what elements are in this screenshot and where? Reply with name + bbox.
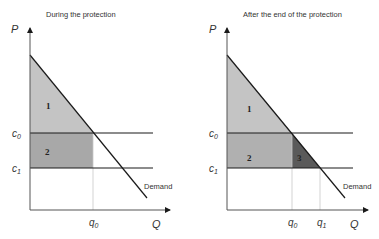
left-c1-label: c1 xyxy=(12,163,21,175)
right-q0-label: q0 xyxy=(288,217,298,229)
right-c0-label: c0 xyxy=(209,128,218,140)
right-region-3-label: 3 xyxy=(297,153,302,163)
right-panel: After the end of the protection 1 2 3 P … xyxy=(209,10,371,230)
right-region-1-label: 1 xyxy=(247,104,252,114)
right-region-2 xyxy=(227,133,292,168)
right-q1-label: q1 xyxy=(317,217,327,229)
right-title: After the end of the protection xyxy=(243,10,342,19)
left-q0-label: q0 xyxy=(89,217,99,229)
right-demand-label: Demand xyxy=(343,182,371,191)
left-c0-label: c0 xyxy=(12,128,21,140)
right-region-2-label: 2 xyxy=(247,153,252,163)
right-q-label: Q xyxy=(350,218,359,230)
left-panel: During the protection 1 2 P Q c0 c1 q0 D… xyxy=(11,10,172,230)
left-q-label: Q xyxy=(152,218,161,230)
left-p-label: P xyxy=(11,23,19,35)
left-demand-label: Demand xyxy=(144,182,172,191)
left-region-1-label: 1 xyxy=(46,101,51,111)
left-region-2-label: 2 xyxy=(45,147,50,157)
protection-diagram: During the protection 1 2 P Q c0 c1 q0 D… xyxy=(0,0,379,239)
right-p-label: P xyxy=(209,23,217,35)
left-title: During the protection xyxy=(46,10,116,19)
right-c1-label: c1 xyxy=(209,163,218,175)
left-region-2 xyxy=(30,133,93,168)
